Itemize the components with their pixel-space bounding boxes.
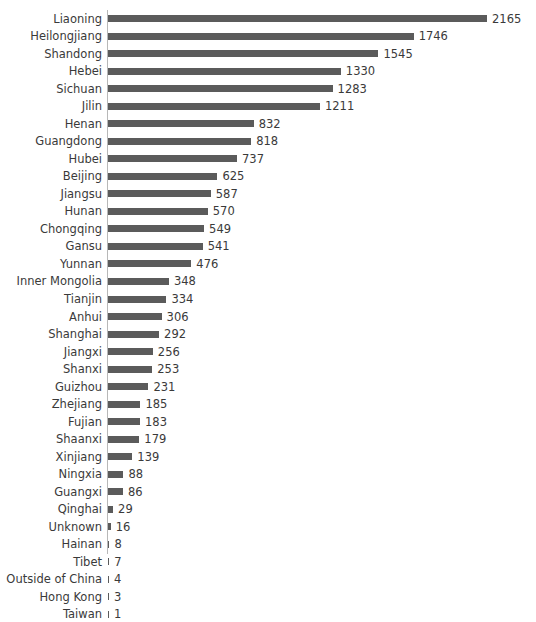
category-label: Shanghai bbox=[0, 328, 102, 340]
bar bbox=[108, 190, 211, 197]
bar-wrapper: 1545 bbox=[108, 45, 413, 63]
bar-wrapper: 7 bbox=[108, 553, 122, 571]
category-label: Guangxi bbox=[0, 486, 102, 498]
bar-row: Liaoning2165 bbox=[0, 10, 536, 28]
bar-row: Anhui306 bbox=[0, 308, 536, 326]
bar bbox=[108, 50, 378, 57]
value-label: 570 bbox=[213, 205, 235, 217]
bar-row: Gansu541 bbox=[0, 238, 536, 256]
category-label: Taiwan bbox=[0, 608, 102, 620]
category-label: Jiangsu bbox=[0, 188, 102, 200]
category-label: Hainan bbox=[0, 538, 102, 550]
value-label: 1330 bbox=[346, 65, 375, 77]
category-label: Shandong bbox=[0, 48, 102, 60]
bar-wrapper: 292 bbox=[108, 325, 186, 343]
category-label: Shaanxi bbox=[0, 433, 102, 445]
value-label: 476 bbox=[196, 258, 218, 270]
bar bbox=[108, 120, 254, 127]
category-label: Hunan bbox=[0, 205, 102, 217]
bar-wrapper: 179 bbox=[108, 430, 166, 448]
bar-row: Jilin1211 bbox=[0, 98, 536, 116]
value-label: 8 bbox=[114, 538, 121, 550]
bar-wrapper: 139 bbox=[108, 448, 159, 466]
category-label: Unknown bbox=[0, 521, 102, 533]
bar-wrapper: 549 bbox=[108, 220, 231, 238]
value-label: 587 bbox=[216, 188, 238, 200]
bar-wrapper: 541 bbox=[108, 238, 230, 256]
category-label: Chongqing bbox=[0, 223, 102, 235]
bar bbox=[108, 576, 109, 583]
value-label: 3 bbox=[114, 591, 121, 603]
bar bbox=[108, 260, 191, 267]
bar-row: Hubei737 bbox=[0, 150, 536, 168]
bar-wrapper: 2165 bbox=[108, 10, 521, 28]
bar-wrapper: 16 bbox=[108, 518, 130, 536]
bar-wrapper: 1 bbox=[108, 606, 121, 622]
bar bbox=[108, 243, 203, 250]
bar-wrapper: 832 bbox=[108, 115, 281, 133]
category-label: Inner Mongolia bbox=[0, 275, 102, 287]
bar-wrapper: 818 bbox=[108, 133, 278, 151]
value-label: 818 bbox=[256, 135, 278, 147]
bar-row: Shanghai292 bbox=[0, 325, 536, 343]
bar-wrapper: 256 bbox=[108, 343, 180, 361]
value-label: 549 bbox=[209, 223, 231, 235]
bar-wrapper: 1746 bbox=[108, 28, 448, 46]
bar-wrapper: 1283 bbox=[108, 80, 367, 98]
bar-wrapper: 3 bbox=[108, 588, 121, 606]
value-label: 334 bbox=[171, 293, 193, 305]
bar-row: Ningxia88 bbox=[0, 465, 536, 483]
bar-row: Heilongjiang1746 bbox=[0, 28, 536, 46]
bar bbox=[108, 558, 109, 565]
category-label: Anhui bbox=[0, 311, 102, 323]
category-label: Liaoning bbox=[0, 13, 102, 25]
bar bbox=[108, 506, 113, 513]
bar bbox=[108, 331, 159, 338]
bar-row: Shanxi253 bbox=[0, 360, 536, 378]
bar bbox=[108, 541, 109, 548]
bar-row: Shaanxi179 bbox=[0, 430, 536, 448]
bar-row: Hainan8 bbox=[0, 535, 536, 553]
bar-row: Xinjiang139 bbox=[0, 448, 536, 466]
bar bbox=[108, 173, 217, 180]
bar-row: Shandong1545 bbox=[0, 45, 536, 63]
category-label: Heilongjiang bbox=[0, 30, 102, 42]
value-label: 253 bbox=[157, 363, 179, 375]
bar-wrapper: 185 bbox=[108, 395, 167, 413]
bar-row: Fujian183 bbox=[0, 413, 536, 431]
category-label: Gansu bbox=[0, 240, 102, 252]
value-label: 1746 bbox=[419, 30, 448, 42]
bar bbox=[108, 348, 153, 355]
category-label: Xinjiang bbox=[0, 451, 102, 463]
category-label: Jilin bbox=[0, 100, 102, 112]
bar-row: Hong Kong3 bbox=[0, 588, 536, 606]
bar-row: Guangxi86 bbox=[0, 483, 536, 501]
bar-row: Hebei1330 bbox=[0, 63, 536, 81]
bar-row: Sichuan1283 bbox=[0, 80, 536, 98]
bar bbox=[108, 471, 123, 478]
category-label: Fujian bbox=[0, 416, 102, 428]
value-label: 29 bbox=[118, 503, 133, 515]
bar-wrapper: 88 bbox=[108, 465, 143, 483]
bar bbox=[108, 138, 251, 145]
bar-wrapper: 4 bbox=[108, 571, 121, 589]
value-label: 832 bbox=[259, 118, 281, 130]
value-label: 231 bbox=[153, 381, 175, 393]
bar-wrapper: 570 bbox=[108, 203, 235, 221]
category-label: Tianjin bbox=[0, 293, 102, 305]
value-label: 2165 bbox=[492, 13, 521, 25]
bar-row: Chongqing549 bbox=[0, 220, 536, 238]
bar bbox=[108, 225, 204, 232]
bar bbox=[108, 68, 341, 75]
bar-row: Henan832 bbox=[0, 115, 536, 133]
value-label: 139 bbox=[137, 451, 159, 463]
bar-wrapper: 737 bbox=[108, 150, 264, 168]
bar-row: Guizhou231 bbox=[0, 378, 536, 396]
bar-wrapper: 183 bbox=[108, 413, 167, 431]
value-label: 179 bbox=[144, 433, 166, 445]
bar-wrapper: 29 bbox=[108, 500, 133, 518]
category-label: Shanxi bbox=[0, 363, 102, 375]
category-label: Beijing bbox=[0, 170, 102, 182]
bar bbox=[108, 593, 109, 600]
category-label: Qinghai bbox=[0, 503, 102, 515]
